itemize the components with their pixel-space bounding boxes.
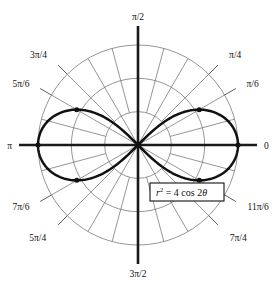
angle-label-210: 7π/6: [13, 202, 30, 212]
angle-label-225: 5π/4: [29, 233, 46, 243]
grid-spoke-195: [41, 154, 105, 171]
label-tick-210: [40, 195, 51, 202]
grid-spoke-210: [51, 145, 138, 195]
angle-label-0: 0: [264, 141, 269, 151]
curve-point-1: [236, 143, 241, 148]
grid-spoke-240: [88, 145, 138, 232]
curve-point-3: [197, 107, 202, 112]
grid-spoke-15: [170, 119, 234, 136]
grid-spoke-75: [147, 48, 164, 112]
grid-spoke-105: [112, 48, 129, 112]
angle-label-30: π/6: [247, 79, 259, 89]
grid-spoke-135: [67, 74, 114, 121]
equation-label-box: r2 = 4 cos 2θ: [150, 183, 224, 201]
grid-spoke-60: [138, 58, 188, 145]
angle-label-90: π/2: [132, 12, 144, 22]
grid-spoke-225: [67, 169, 114, 216]
angle-label-180: π: [7, 141, 12, 151]
angle-label-315: 7π/4: [230, 233, 247, 243]
angle-label-330: 11π/6: [248, 202, 270, 212]
label-tick-225: [58, 216, 67, 225]
label-tick-30: [225, 89, 236, 96]
equation-text: r2 = 4 cos 2θ: [156, 186, 207, 198]
label-tick-45: [209, 65, 218, 74]
angle-label-150: 5π/6: [13, 79, 30, 89]
grid-spoke-120: [88, 58, 138, 145]
grid-spoke-30: [138, 95, 225, 145]
label-tick-330: [225, 195, 236, 202]
curve-point-5: [74, 178, 79, 183]
label-tick-150: [40, 89, 51, 96]
polar-plot-figure: 0π/6π/4π/23π/45π/6π7π/65π/43π/27π/411π/6…: [0, 0, 279, 286]
label-tick-315: [209, 216, 218, 225]
grid-spoke-345: [170, 154, 234, 171]
curve-point-2: [36, 143, 41, 148]
angle-label-270: 3π/2: [130, 269, 147, 279]
angle-label-45: π/4: [229, 50, 241, 60]
curve-point-4: [74, 107, 79, 112]
polar-chart-svg: 0π/6π/4π/23π/45π/6π7π/65π/43π/27π/411π/6…: [0, 0, 279, 286]
grid-spoke-45: [162, 74, 209, 121]
grid-spoke-255: [112, 177, 129, 241]
grid-spoke-165: [41, 119, 105, 136]
curve-point-6: [197, 178, 202, 183]
grid-spoke-150: [51, 95, 138, 145]
angle-label-135: 3π/4: [30, 50, 47, 60]
label-tick-135: [58, 65, 67, 74]
